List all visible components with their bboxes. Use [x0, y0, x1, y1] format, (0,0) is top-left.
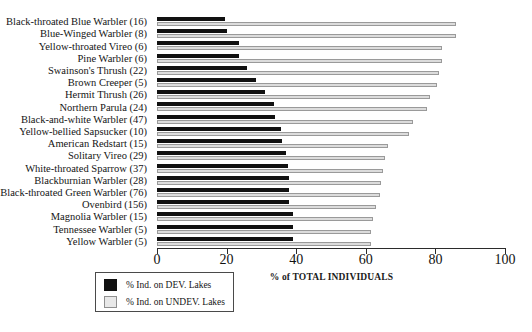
y-axis-label: White-throated Sparrow (37) [0, 163, 152, 174]
bar-undev [157, 156, 385, 160]
y-axis-label: Swainson's Thrush (22) [0, 65, 152, 76]
bar-undev [157, 71, 439, 75]
bar-dev [157, 90, 265, 94]
bar-undev [157, 83, 437, 87]
bar-dev [157, 164, 288, 168]
y-axis-label: Yellow-bellied Sapsucker (10) [0, 126, 152, 137]
y-axis-category-labels: Black-throated Blue Warbler (16)Blue-Win… [0, 16, 152, 248]
bar-dev [157, 200, 289, 204]
bar-undev [157, 59, 442, 63]
plot-area [157, 16, 505, 248]
x-axis-line [157, 248, 506, 249]
legend-label-undev: % Ind. on UNDEV. Lakes [126, 296, 225, 308]
bar-dev [157, 127, 281, 131]
bar-undev [157, 46, 442, 50]
bar-dev [157, 188, 289, 192]
bar-dev [157, 212, 293, 216]
bar-dev [157, 102, 274, 106]
bar-undev [157, 169, 383, 173]
bar-undev [157, 205, 376, 209]
y-axis-label: Ovenbird (156) [0, 199, 152, 210]
bar-dev [157, 29, 227, 33]
bar-dev [157, 66, 247, 70]
y-axis-label: Yellow Warbler (5) [0, 236, 152, 247]
y-axis-label: Black-throated Blue Warbler (16) [0, 16, 152, 27]
x-axis-tick-label: 20 [207, 253, 247, 267]
horizontal-bar-chart: Black-throated Blue Warbler (16)Blue-Win… [0, 0, 532, 332]
bar-dev [157, 237, 293, 241]
y-axis-label: Yellow-throated Vireo (6) [0, 41, 152, 52]
y-axis-label: Black-and-white Warbler (47) [0, 114, 152, 125]
y-axis-label: Tennessee Warbler (5) [0, 224, 152, 235]
bar-undev [157, 34, 456, 38]
y-axis-label: Magnolia Warbler (15) [0, 211, 152, 222]
legend-label-dev: % Ind. on DEV. Lakes [126, 279, 211, 291]
y-axis-label: Black-throated Green Warbler (76) [0, 187, 152, 198]
black-square-swatch [104, 279, 117, 291]
y-axis-label: Blackburnian Warbler (28) [0, 175, 152, 186]
bar-dev [157, 78, 256, 82]
x-axis-tick-label: 60 [346, 253, 386, 267]
bar-undev [157, 107, 427, 111]
bar-undev [157, 193, 380, 197]
x-axis-tick-label: 0 [137, 253, 177, 267]
y-axis-label: American Redstart (15) [0, 138, 152, 149]
bar-dev [157, 17, 225, 21]
y-axis-label: Brown Creeper (5) [0, 77, 152, 88]
x-axis-tick-label: 40 [276, 253, 316, 267]
bar-undev [157, 181, 381, 185]
bar-undev [157, 120, 413, 124]
y-axis-label: Pine Warbler (6) [0, 53, 152, 64]
bar-dev [157, 151, 286, 155]
y-axis-label: Northern Parula (24) [0, 102, 152, 113]
bar-dev [157, 54, 239, 58]
bar-dev [157, 41, 239, 45]
chart-legend: % Ind. on DEV. Lakes % Ind. on UNDEV. La… [95, 272, 234, 312]
y-axis-label: Blue-Winged Warbler (8) [0, 28, 152, 39]
bar-undev [157, 242, 371, 246]
x-axis-tick-label: 100 [485, 253, 525, 267]
bar-undev [157, 230, 371, 234]
y-axis-label: Hermit Thrush (26) [0, 89, 152, 100]
bar-undev [157, 22, 456, 26]
y-axis-label: Solitary Vireo (29) [0, 150, 152, 161]
bar-undev [157, 95, 430, 99]
bar-dev [157, 115, 275, 119]
bar-undev [157, 132, 409, 136]
bar-dev [157, 139, 282, 143]
light-gray-square-swatch [104, 296, 117, 308]
bar-dev [157, 225, 293, 229]
bar-undev [157, 144, 388, 148]
x-axis-tick-label: 80 [415, 253, 455, 267]
bar-dev [157, 176, 289, 180]
bar-undev [157, 217, 373, 221]
